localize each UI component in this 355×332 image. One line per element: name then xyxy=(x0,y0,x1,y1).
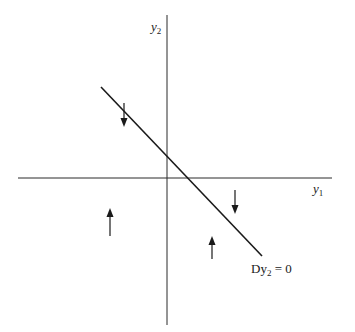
isocline-line xyxy=(101,87,262,256)
isocline-label-rest: = 0 xyxy=(271,261,291,276)
y1-axis-label: y1 xyxy=(313,182,323,198)
y2-label-sub: 2 xyxy=(157,26,162,36)
arrow-up-icon xyxy=(209,236,216,259)
arrow-down-icon xyxy=(121,103,128,127)
isocline-label: Dy2 = 0 xyxy=(251,262,292,278)
y2-axis-label: y2 xyxy=(151,20,161,36)
y1-label-sub: 1 xyxy=(319,188,324,198)
arrow-up-icon xyxy=(107,208,114,236)
phase-diagram-canvas xyxy=(0,0,355,332)
isocline-label-main: Dy xyxy=(251,261,267,276)
arrow-down-icon xyxy=(232,190,239,214)
